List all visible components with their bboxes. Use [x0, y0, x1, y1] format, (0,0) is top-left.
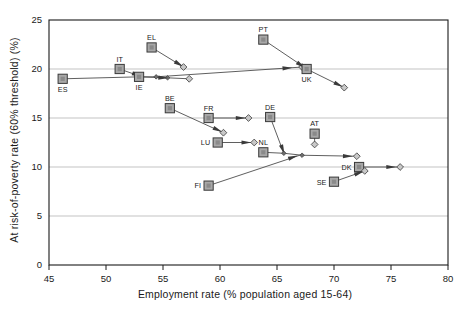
direction-arrowhead — [386, 165, 396, 169]
x-tick-label: 60 — [215, 273, 226, 284]
country-label-be: BE — [165, 94, 175, 103]
y-axis-tick-labels: 0510152025 — [31, 14, 42, 270]
y-axis-title: At risk-of-poverty rate (60% threshold) … — [8, 37, 20, 242]
y-tick-label: 10 — [31, 161, 42, 172]
square-inner-fill — [118, 67, 122, 71]
direction-arrowhead — [236, 116, 246, 120]
end-value-marker — [353, 153, 360, 160]
trajectory-line — [263, 152, 356, 156]
end-value-marker — [220, 129, 227, 136]
direction-arrowhead — [282, 66, 292, 70]
y-tick-label: 0 — [37, 259, 42, 270]
end-value-marker — [245, 115, 252, 122]
country-label-lu: LU — [201, 138, 210, 147]
x-tick-label: 65 — [272, 273, 283, 284]
square-inner-fill — [150, 45, 154, 49]
x-tick-label: 55 — [158, 273, 169, 284]
country-label-nl: NL — [259, 138, 268, 147]
end-value-marker — [186, 75, 193, 82]
country-label-de: DE — [265, 103, 275, 112]
square-inner-fill — [207, 116, 211, 120]
x-tick-label: 75 — [386, 273, 397, 284]
country-label-se: SE — [317, 178, 327, 187]
waypoint-marker — [154, 75, 159, 80]
trajectory-line — [209, 155, 300, 185]
direction-arrowhead — [213, 126, 223, 132]
country-label-fi: FI — [195, 181, 202, 190]
end-value-marker — [251, 139, 258, 146]
country-label-el: EL — [147, 33, 156, 42]
y-tick-label: 25 — [31, 14, 42, 25]
direction-arrowhead — [288, 156, 298, 161]
country-label-at: AT — [310, 119, 319, 128]
square-inner-fill — [357, 165, 361, 169]
x-tick-label: 50 — [101, 273, 112, 284]
x-axis-ticks — [49, 265, 448, 270]
country-label-ie: IE — [136, 83, 143, 92]
square-inner-fill — [207, 184, 211, 188]
x-axis-tick-labels: 4550556065707580 — [44, 273, 454, 284]
square-inner-fill — [168, 106, 172, 110]
square-inner-fill — [261, 38, 265, 42]
end-value-marker — [311, 141, 318, 148]
square-inner-fill — [332, 180, 336, 184]
square-inner-fill — [137, 75, 141, 79]
direction-arrowhead — [242, 140, 252, 144]
waypoint-marker — [282, 151, 287, 156]
x-tick-label: 70 — [329, 273, 340, 284]
x-axis-title: Employment rate (% population aged 15-64… — [138, 288, 352, 300]
y-tick-label: 15 — [31, 112, 42, 123]
country-code-labels: ESITIEELPTUKBEFRDELUATNLFIDKSE — [58, 25, 352, 190]
waypoint-marker — [300, 153, 305, 158]
end-value-marker — [397, 164, 404, 171]
trajectory-line — [139, 67, 302, 77]
chart-canvas: 4550556065707580 0510152025 ESITIEELPTUK… — [0, 0, 461, 310]
country-label-dk: DK — [341, 163, 351, 172]
end-value-marker — [341, 84, 348, 91]
country-label-it: IT — [116, 55, 123, 64]
square-inner-fill — [305, 67, 309, 71]
country-label-es: ES — [58, 85, 68, 94]
square-inner-fill — [313, 132, 317, 136]
y-tick-label: 20 — [31, 63, 42, 74]
x-tick-label: 45 — [44, 273, 55, 284]
square-inner-fill — [268, 115, 272, 119]
direction-arrowhead — [343, 154, 353, 158]
square-inner-fill — [261, 150, 265, 154]
direction-arrowhead — [333, 81, 343, 87]
square-inner-fill — [216, 140, 220, 144]
country-label-uk: UK — [302, 75, 312, 84]
scatter-chart: 4550556065707580 0510152025 ESITIEELPTUK… — [0, 0, 461, 310]
square-inner-fill — [61, 77, 65, 81]
end-value-marker — [180, 64, 187, 71]
x-tick-label: 80 — [443, 273, 454, 284]
country-label-fr: FR — [204, 104, 214, 113]
y-tick-label: 5 — [37, 210, 42, 221]
country-label-pt: PT — [259, 25, 269, 34]
